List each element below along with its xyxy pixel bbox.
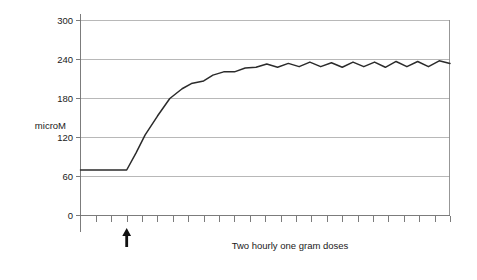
chart-container: 300 240 180 120 60 0 microM Two hourly o… [0,0,477,280]
y-tick-label-300: 300 [57,15,73,26]
line-chart: 300 240 180 120 60 0 microM Two hourly o… [0,0,477,280]
y-axis-title: microM [35,120,66,131]
y-tick-marks-group [76,21,80,216]
dose-start-arrow-icon [122,228,131,247]
y-tick-label-60: 60 [62,171,73,182]
y-tick-label-240: 240 [57,54,73,65]
x-tick-marks-group [96,216,450,222]
y-tick-label-0: 0 [68,210,73,221]
y-tick-label-180: 180 [57,93,73,104]
y-tick-labels-group: 300 240 180 120 60 0 [57,15,73,221]
y-tick-label-120: 120 [57,132,73,143]
x-axis-title: Two hourly one gram doses [232,240,349,251]
series-line-plasma-concentration [81,61,451,170]
